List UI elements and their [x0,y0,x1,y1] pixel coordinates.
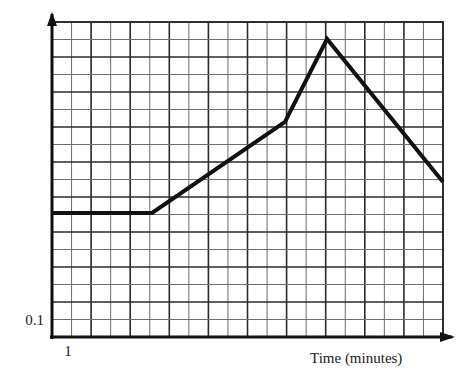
line-chart: 0.1 1 Time (minutes) [0,0,466,383]
grid-lines [52,22,443,337]
chart-container: 0.1 1 Time (minutes) [0,0,466,383]
x-axis-tick-label: 1 [64,343,72,359]
y-axis-tick-label: 0.1 [25,312,44,328]
x-axis-title: Time (minutes) [310,350,402,367]
